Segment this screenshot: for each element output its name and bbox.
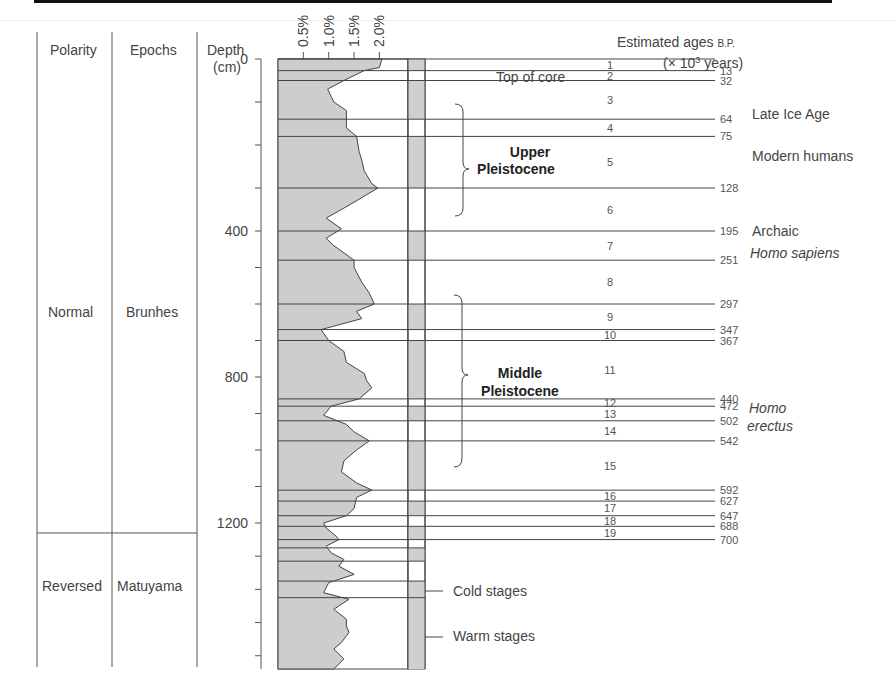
stage-number: 4 [607,122,613,134]
warm-stage-band [408,304,425,330]
stage-number: 17 [604,502,616,514]
label-homo: Homo [749,400,787,416]
stage-number: 15 [604,460,616,472]
stage-age: 627 [720,495,738,507]
stage-number: 8 [607,276,613,288]
stage-number: 18 [604,515,616,527]
stage-age: 542 [720,435,738,447]
stage-age: 128 [720,182,738,194]
ages-header-text: Estimated ages [617,34,714,50]
warm-stage-band [408,441,425,490]
middle-pleistocene-line1: Middle [498,365,543,381]
warm-stage-band [408,81,425,120]
depth-axis: 04008001200 [217,51,261,669]
polarity-reversed: Reversed [42,578,102,594]
warm-stage-band [408,581,425,598]
epoch-matuyama: Matuyama [117,578,183,594]
label-late-ice-age: Late Ice Age [752,106,830,122]
legend-cold-label: Cold stages [453,583,527,599]
middle-pleistocene-line2: Pleistocene [481,383,559,399]
stage-age: 64 [720,113,732,125]
ages-unit: (× 103 years) [663,55,743,71]
stage-number: 6 [607,204,613,216]
stage-labels: 1132323644755128619572518297934710367114… [604,59,738,546]
legend-warm-label: Warm stages [453,628,535,644]
warm-stage-band [408,548,425,561]
stage-age: 472 [720,400,738,412]
stage-column [408,59,425,669]
stage-age: 502 [720,415,738,427]
percent-axis: 0.5%1.0%1.5%2.0% [295,15,387,59]
warm-stage-band [408,136,425,188]
depth-tick-label: 400 [225,223,249,239]
warm-stage-band [408,526,425,539]
percent-tick-label: 1.0% [321,15,337,47]
stage-number: 13 [604,408,616,420]
upper-pleistocene-line1: Upper [510,144,551,160]
ages-header-bp: B.P. [717,38,735,49]
stage-number: 7 [607,240,613,252]
stage-age: 367 [720,335,738,347]
deep-sea-core-figure: Polarity Epochs Depth (cm) Normal Brunhe… [0,0,895,697]
warm-stage-band [408,501,425,516]
stage-number: 2 [607,70,613,82]
percent-tick-label: 1.5% [346,15,362,47]
depth-tick-label: 800 [225,369,249,385]
stage-number: 5 [607,156,613,168]
header-depth: Depth [207,42,244,58]
header-polarity: Polarity [50,42,97,58]
warm-stage-band [408,341,425,399]
stage-number: 9 [607,311,613,323]
stage-number: 19 [604,527,616,539]
warm-stage-band [408,598,425,669]
top-of-core-label: Top of core [496,69,565,85]
header-depth-unit: (cm) [213,59,241,75]
percent-tick-label: 0.5% [295,15,311,47]
stage-age: 195 [720,225,738,237]
label-erectus: erectus [747,418,793,434]
depth-tick-label: 0 [240,51,248,67]
stage-number: 3 [607,94,613,106]
label-homo-sapiens: Homo sapiens [750,245,840,261]
stage-number: 10 [604,329,616,341]
ages-unit-pre: (× 10 [663,55,696,71]
epoch-brunhes: Brunhes [126,304,178,320]
label-modern-humans: Modern humans [752,148,853,164]
stage-age: 32 [720,75,732,87]
depth-tick-label: 1200 [217,515,248,531]
stage-number: 14 [604,425,616,437]
stage-age: 297 [720,298,738,310]
warm-stage-band [408,59,425,71]
stage-age: 251 [720,254,738,266]
stage-age: 700 [720,534,738,546]
polarity-normal: Normal [48,304,93,320]
ages-header: Estimated ages B.P. [617,34,735,50]
upper-pleistocene-brace [455,104,469,216]
label-archaic: Archaic [752,223,799,239]
percent-tick-label: 2.0% [371,15,387,47]
stage-age: 75 [720,130,732,142]
warm-stage-band [408,231,425,260]
header-epochs: Epochs [130,42,177,58]
stage-number: 16 [604,490,616,502]
stage-age: 688 [720,520,738,532]
ages-unit-post: years) [700,55,743,71]
upper-pleistocene-line2: Pleistocene [477,161,555,177]
warm-stage-band [408,406,425,421]
stage-number: 11 [604,364,615,376]
